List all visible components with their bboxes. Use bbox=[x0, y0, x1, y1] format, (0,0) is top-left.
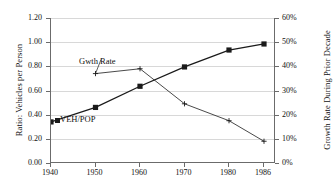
right-axis-title: Growth Rate During Prior Decade bbox=[322, 15, 332, 165]
left-axis-tick: 0.80 bbox=[12, 61, 42, 70]
tick-mark bbox=[228, 163, 229, 167]
left-axis-tick: 0.60 bbox=[12, 86, 42, 95]
x-axis-tick: 1950 bbox=[75, 168, 115, 177]
series-gwth-rate bbox=[93, 60, 267, 144]
right-axis-tick: 20% bbox=[282, 110, 312, 119]
x-axis-tick: 1986 bbox=[243, 168, 283, 177]
right-axis-tick: 10% bbox=[282, 134, 312, 143]
left-axis-tick: 1.20 bbox=[12, 13, 42, 22]
x-axis-tick: 1980 bbox=[208, 168, 248, 177]
right-axis-tick: 40% bbox=[282, 61, 312, 70]
data-series-layer bbox=[51, 18, 276, 163]
x-axis-tick: 1940 bbox=[30, 168, 70, 177]
series-label-gwth-rate: Gwth Rate bbox=[79, 56, 116, 66]
tick-mark bbox=[139, 163, 140, 167]
left-axis-tick: 0.40 bbox=[12, 110, 42, 119]
tick-mark bbox=[275, 163, 279, 164]
series-veh-pop bbox=[51, 41, 267, 124]
tick-mark bbox=[184, 163, 185, 167]
left-axis-tick: 1.00 bbox=[12, 37, 42, 46]
left-axis-tick: 0.20 bbox=[12, 134, 42, 143]
tick-mark bbox=[50, 163, 51, 167]
series-label-veh-pop: VEH/POP bbox=[60, 114, 95, 124]
right-axis-tick: 50% bbox=[282, 37, 312, 46]
right-axis-tick: 60% bbox=[282, 13, 312, 22]
x-axis-tick: 1970 bbox=[164, 168, 204, 177]
plot-area bbox=[50, 18, 275, 163]
left-axis-tick: 0.00 bbox=[12, 158, 42, 167]
chart-container: Ratio: Vehicles per Person Growth Rate D… bbox=[0, 0, 333, 189]
x-axis-tick: 1960 bbox=[119, 168, 159, 177]
right-axis-tick: 0% bbox=[282, 158, 312, 167]
tick-mark bbox=[263, 163, 264, 167]
right-axis-tick: 30% bbox=[282, 86, 312, 95]
tick-mark bbox=[95, 163, 96, 167]
